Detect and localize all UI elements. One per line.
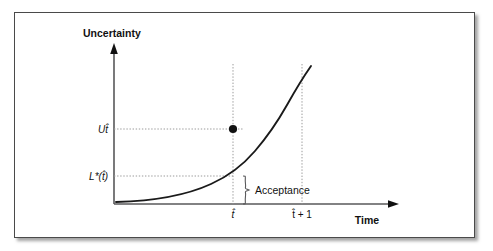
y-axis-title: Uncertainty xyxy=(83,27,141,39)
figure-root: Uncertainty Time Ut̂ L*(t̂) t̂ t̂ + 1 Ac… xyxy=(0,0,493,251)
value-label-l-star-t-hat: L*(t̂) xyxy=(89,170,108,182)
y-axis xyxy=(110,43,118,204)
acceptance-brace xyxy=(243,176,249,204)
figure-frame: Uncertainty Time Ut̂ L*(t̂) t̂ t̂ + 1 Ac… xyxy=(14,12,475,238)
uncertainty-time-chart: Uncertainty Time Ut̂ L*(t̂) t̂ t̂ + 1 Ac… xyxy=(15,13,476,239)
acceptance-annotation-label: Acceptance xyxy=(255,184,310,196)
x-axis-arrowhead xyxy=(388,200,399,208)
y-axis-arrowhead xyxy=(110,43,118,54)
observed-uncertainty-point xyxy=(229,125,237,133)
x-axis xyxy=(114,200,399,208)
uncertainty-curve xyxy=(116,66,311,202)
x-tick-label-t-hat-plus-one: t̂ + 1 xyxy=(291,208,312,220)
x-axis-title: Time xyxy=(355,214,379,226)
x-tick-label-t-hat: t̂ xyxy=(232,208,236,220)
value-label-u-t-hat: Ut̂ xyxy=(98,123,109,135)
